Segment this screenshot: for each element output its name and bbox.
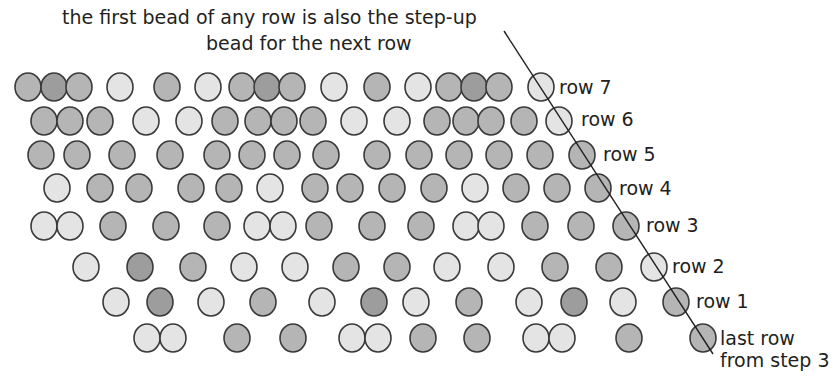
bead-mid bbox=[64, 141, 90, 169]
bead-mid bbox=[408, 212, 434, 240]
bead-mid bbox=[424, 107, 450, 135]
bead-mid bbox=[453, 107, 479, 135]
bead-mid bbox=[486, 141, 512, 169]
bead-dark bbox=[127, 253, 153, 281]
bead-mid bbox=[66, 73, 92, 101]
bead-row bbox=[28, 141, 595, 169]
bead-light bbox=[453, 212, 479, 240]
bead-mid bbox=[300, 107, 326, 135]
bead-mid bbox=[87, 107, 113, 135]
bead-mid bbox=[478, 107, 504, 135]
bead-light bbox=[134, 324, 160, 352]
bead-light bbox=[282, 253, 308, 281]
bead-light bbox=[523, 324, 549, 352]
bead-mid bbox=[126, 174, 152, 202]
bead-mid bbox=[384, 253, 410, 281]
bead-mid bbox=[154, 73, 180, 101]
row-label-last-row: last row from step 3 bbox=[720, 327, 829, 371]
bead-row bbox=[134, 324, 716, 352]
bead-mid bbox=[446, 141, 472, 169]
bead-mid bbox=[31, 107, 57, 135]
bead-row bbox=[103, 288, 689, 316]
bead-mid bbox=[486, 73, 512, 101]
bead-light bbox=[549, 324, 575, 352]
bead-light bbox=[57, 212, 83, 240]
bead-dark bbox=[254, 73, 280, 101]
bead-mid bbox=[436, 73, 462, 101]
bead-mid bbox=[585, 174, 611, 202]
row-label-2: row 2 bbox=[672, 255, 725, 277]
bead-light bbox=[244, 212, 270, 240]
bead-mid bbox=[568, 212, 594, 240]
bead-mid bbox=[212, 107, 238, 135]
bead-mid bbox=[364, 141, 390, 169]
bead-mid bbox=[379, 174, 405, 202]
bead-dark bbox=[147, 288, 173, 316]
bead-mid bbox=[274, 141, 300, 169]
bead-mid bbox=[15, 73, 41, 101]
row-label-3: row 3 bbox=[646, 214, 699, 236]
bead-light bbox=[339, 324, 365, 352]
row-label-7: row 7 bbox=[559, 76, 612, 98]
bead-mid bbox=[406, 141, 432, 169]
bead-light bbox=[133, 107, 159, 135]
bead-dark bbox=[41, 73, 67, 101]
bead-light bbox=[160, 324, 186, 352]
bead-mid bbox=[178, 174, 204, 202]
bead-mid bbox=[28, 141, 54, 169]
bead-mid bbox=[511, 107, 537, 135]
bead-dark bbox=[461, 73, 487, 101]
bead-mid bbox=[100, 212, 126, 240]
bead-mid bbox=[306, 212, 332, 240]
bead-mid bbox=[542, 253, 568, 281]
bead-mid bbox=[204, 212, 230, 240]
bead-light bbox=[488, 253, 514, 281]
row-label-6: row 6 bbox=[581, 108, 634, 130]
bead-mid bbox=[359, 212, 385, 240]
bead-mid bbox=[596, 253, 622, 281]
bead-mid bbox=[364, 73, 390, 101]
bead-light bbox=[321, 73, 347, 101]
bead-light bbox=[365, 324, 391, 352]
bead-mid bbox=[410, 324, 436, 352]
bead-mid bbox=[57, 107, 83, 135]
bead-mid bbox=[522, 212, 548, 240]
bead-row bbox=[31, 107, 572, 135]
bead-mid bbox=[224, 324, 250, 352]
bead-light bbox=[462, 174, 488, 202]
bead-mid bbox=[503, 174, 529, 202]
bead-diagram bbox=[0, 0, 833, 381]
bead-light bbox=[610, 288, 636, 316]
bead-light bbox=[309, 288, 335, 316]
bead-mid bbox=[109, 141, 135, 169]
bead-dark bbox=[561, 288, 587, 316]
bead-light bbox=[195, 73, 221, 101]
bead-mid bbox=[421, 174, 447, 202]
bead-light bbox=[270, 212, 296, 240]
bead-mid bbox=[157, 141, 183, 169]
bead-row bbox=[44, 174, 611, 202]
bead-mid bbox=[613, 212, 639, 240]
bead-mid bbox=[337, 174, 363, 202]
bead-mid bbox=[313, 141, 339, 169]
bead-light bbox=[516, 288, 542, 316]
row-label-1: row 1 bbox=[696, 290, 749, 312]
row-label-5: row 5 bbox=[603, 143, 656, 165]
bead-mid bbox=[616, 324, 642, 352]
bead-light bbox=[257, 174, 283, 202]
bead-mid bbox=[302, 174, 328, 202]
bead-mid bbox=[239, 141, 265, 169]
row-label-4: row 4 bbox=[619, 177, 672, 199]
bead-mid bbox=[216, 174, 242, 202]
bead-light bbox=[231, 253, 257, 281]
bead-mid bbox=[153, 212, 179, 240]
bead-light bbox=[31, 212, 57, 240]
bead-mid bbox=[527, 141, 553, 169]
bead-mid bbox=[87, 174, 113, 202]
bead-mid bbox=[245, 107, 271, 135]
bead-mid bbox=[279, 73, 305, 101]
bead-mid bbox=[333, 253, 359, 281]
bead-light bbox=[198, 288, 224, 316]
bead-mid bbox=[456, 288, 482, 316]
bead-dark bbox=[361, 288, 387, 316]
